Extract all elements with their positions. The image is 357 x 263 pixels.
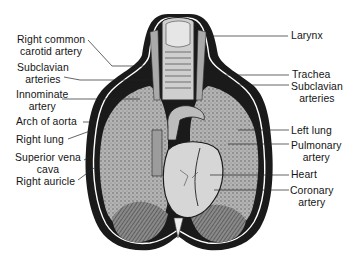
- label-arch-of-aorta: Arch of aorta: [16, 116, 77, 128]
- label-heart: Heart: [291, 169, 317, 181]
- label-left-lung: Left lung: [291, 125, 332, 137]
- label-right-auricle: Right auricle: [16, 176, 75, 188]
- label-subclavian-arteries-left: Subclavian arteries: [17, 62, 69, 85]
- label-superior-vena-cava: Superior vena cava: [15, 152, 81, 175]
- label-coronary-artery: Coronary artery: [290, 185, 334, 208]
- label-trachea: Trachea: [292, 69, 330, 81]
- label-larynx: Larynx: [291, 30, 323, 42]
- trachea-shape: [162, 18, 194, 101]
- label-right-lung: Right lung: [16, 134, 64, 146]
- label-pulmonary-artery: Pulmonary artery: [291, 140, 342, 163]
- label-subclavian-arteries-right: Subclavian arteries: [291, 81, 343, 104]
- label-innominate-artery: Innominate artery: [16, 89, 68, 112]
- label-right-common-carotid-artery: Right common carotid artery: [17, 34, 85, 57]
- anatomy-diagram: Right common carotid artery Subclavian a…: [0, 0, 357, 263]
- vena-cava-shape: [152, 130, 162, 176]
